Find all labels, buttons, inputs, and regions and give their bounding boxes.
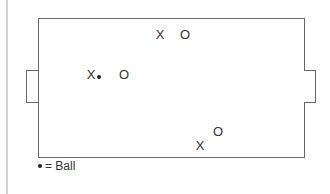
player-o-marker: O bbox=[180, 28, 190, 41]
legend: = Ball bbox=[38, 159, 75, 173]
right-goal bbox=[304, 70, 316, 103]
page-margin-line bbox=[6, 0, 8, 194]
player-o-marker: O bbox=[119, 68, 129, 81]
legend-text: = Ball bbox=[45, 159, 75, 173]
player-x-marker: X bbox=[156, 28, 165, 41]
player-o-marker: O bbox=[213, 125, 223, 138]
player-x-marker: X bbox=[87, 68, 96, 81]
soccer-field bbox=[38, 18, 305, 158]
left-goal bbox=[26, 70, 38, 103]
ball-legend-icon bbox=[38, 164, 42, 168]
ball-icon bbox=[97, 75, 101, 79]
player-x-marker: X bbox=[196, 139, 205, 152]
